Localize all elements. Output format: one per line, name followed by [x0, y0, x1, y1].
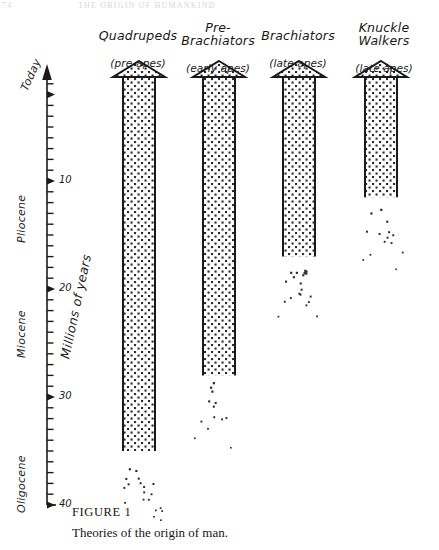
arrow-tail-dot [391, 242, 393, 244]
arrow-tail-dot [395, 269, 397, 271]
axis-tick-major [47, 285, 55, 292]
arrow-tail-dot [300, 294, 302, 296]
arrow-tail-dot [135, 470, 137, 472]
arrow-shaft [203, 77, 235, 375]
arrow-tail-dot [123, 487, 125, 489]
arrow-tail-dot [300, 282, 302, 284]
arrow-tail-dot [293, 276, 295, 278]
arrow-tail-dot [302, 274, 304, 276]
arrow-shaft [123, 77, 155, 451]
column-subtitle: (late apes) [334, 62, 434, 75]
arrow-tail-dot [143, 491, 145, 493]
arrow-tail-dot [308, 301, 310, 303]
arrow-tail-dot [213, 416, 215, 418]
arrow-tail-dot [379, 233, 381, 235]
arrow-tail-dot [128, 483, 130, 485]
arrow-tail-dot [278, 316, 280, 318]
axis-epoch-pliocene: Pliocene [15, 195, 28, 243]
arrow-tail-dot [296, 272, 298, 274]
arrow-tail-dot [151, 493, 153, 495]
arrow-tail-dot [305, 271, 307, 273]
arrow-tail-dot [143, 486, 145, 488]
arrow-tail-dot [208, 400, 210, 402]
arrow-tail-dot [207, 428, 209, 430]
arrow-tail-dot [290, 272, 292, 274]
axis-tick-major [47, 177, 55, 184]
arrow-tail-dot [290, 297, 292, 299]
arrow-tail-dot [386, 221, 388, 223]
arrow-tail-dot [370, 212, 372, 214]
arrow-shaft [283, 77, 315, 257]
arrow-tail-dot [366, 231, 368, 233]
arrow-tail-dot [380, 209, 382, 211]
origin-arrow-1 [113, 61, 165, 521]
axis-tick-major [47, 91, 55, 98]
axis-tick-label-30: 30 [59, 390, 72, 401]
axis-tick-label-40: 40 [59, 498, 72, 509]
figure-number: FIGURE 1 [72, 505, 372, 520]
arrow-tail-dot [129, 468, 131, 470]
arrow-tail-dot [362, 259, 364, 261]
arrow-tail-dot [316, 316, 318, 318]
figure-caption-text: Theories of the origin of man. [72, 525, 372, 541]
arrow-tail-dot [221, 418, 223, 420]
column-header-brachiators: Brachiators (late apes) [248, 16, 348, 83]
axis-tick-label-20: 20 [59, 282, 72, 293]
arrow-tail-dot [213, 406, 215, 408]
axis-epoch-oligocene: Oligocene [15, 455, 28, 513]
axis-tick-major [47, 501, 55, 508]
arrow-tail-dot [140, 482, 142, 484]
column-subtitle: (late apes) [248, 57, 348, 70]
arrow-tail-dot [387, 237, 389, 239]
column-header-knuckle-walkers: Knuckle Walkers (late apes) [334, 8, 434, 88]
arrow-tail-dot [194, 437, 196, 439]
arrow-tail-dot [301, 289, 303, 291]
arrow-tail-dot [138, 478, 140, 480]
figure-theories-of-origin-of-man: Today Pliocene Miocene Oligocene Million… [0, 0, 439, 550]
axis-tick-major [47, 393, 55, 400]
arrow-tail-dot [392, 234, 394, 236]
axis-tick-label-10: 10 [59, 174, 72, 185]
arrow-tail-dot [284, 301, 286, 303]
arrow-tail-dot [285, 281, 287, 283]
arrow-tail-dot [143, 499, 145, 501]
arrow-tail-dot [124, 502, 126, 504]
axis-epoch-miocene: Miocene [15, 310, 28, 358]
arrow-tail-dot [305, 304, 307, 306]
arrow-tail-dot [211, 391, 213, 393]
column-title: Brachiators [248, 29, 348, 42]
arrow-tail-dot [310, 296, 312, 298]
arrow-tail-dot [402, 252, 404, 254]
figure-caption: FIGURE 1 Theories of the origin of man. [72, 505, 372, 541]
arrow-tail-dot [125, 478, 127, 480]
arrow-shaft [365, 77, 397, 197]
arrow-tail-dot [225, 417, 227, 419]
arrow-tail-dot [370, 254, 372, 256]
arrow-tail-dot [210, 387, 212, 389]
origin-arrow-3 [273, 61, 325, 318]
time-axis [42, 64, 56, 505]
origin-arrow-4 [355, 61, 407, 270]
origin-arrow-2 [193, 61, 245, 449]
arrow-tail-dot [215, 402, 217, 404]
arrow-tail-dot [230, 447, 232, 449]
arrow-tail-dot [152, 483, 154, 485]
column-title: Knuckle Walkers [334, 21, 434, 47]
arrow-tail-dot [213, 382, 215, 384]
axis-ticks [47, 84, 55, 509]
arrow-tail-dot [388, 231, 390, 233]
origin-arrows [113, 61, 407, 521]
arrow-tail-dot [200, 421, 202, 423]
arrow-tail-dot [305, 273, 307, 275]
arrow-tail-dot [384, 241, 386, 243]
arrow-tail-dot [148, 499, 150, 501]
